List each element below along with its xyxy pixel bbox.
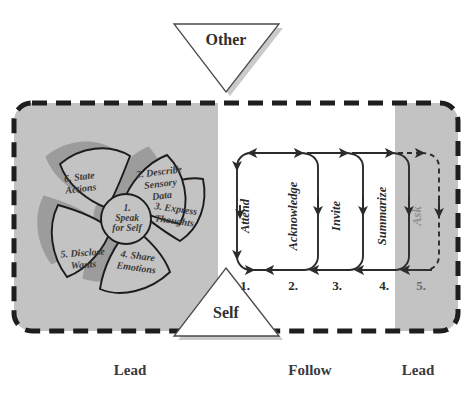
svg-text:Wants: Wants: [70, 258, 96, 271]
loop-label-invite: Invite: [329, 201, 343, 232]
step-number-5: 5.: [416, 278, 426, 293]
svg-text:Speak: Speak: [115, 213, 139, 223]
loop-label-attend: Attend: [238, 198, 252, 234]
zone-label-follow: Follow: [270, 362, 350, 379]
step-number-3: 3.: [332, 278, 342, 293]
petal-6-label: 6. State Actions: [62, 169, 97, 196]
step-number-2: 2.: [288, 278, 298, 293]
step-number-4: 4.: [379, 278, 389, 293]
loop-label-ask: Ask: [410, 206, 424, 227]
zone-label-lead-right: Lead: [378, 362, 458, 379]
step-number-1: 1.: [240, 278, 250, 293]
zone-label-lead-left: Lead: [90, 362, 170, 379]
diagram-canvas: Other Self 1. Speak for Self 2. Describe…: [0, 0, 475, 401]
other-label: Other: [206, 31, 247, 48]
loop-label-acknowledge: Acknowledge: [286, 181, 300, 251]
svg-text:1.: 1.: [123, 203, 130, 213]
diagram-svg: Other Self 1. Speak for Self 2. Describe…: [0, 0, 475, 401]
svg-text:for Self: for Self: [112, 223, 142, 233]
zone-lead-right-fill: [395, 103, 458, 331]
self-label: Self: [213, 304, 239, 321]
loop-label-summarize: Summarize: [375, 186, 389, 245]
